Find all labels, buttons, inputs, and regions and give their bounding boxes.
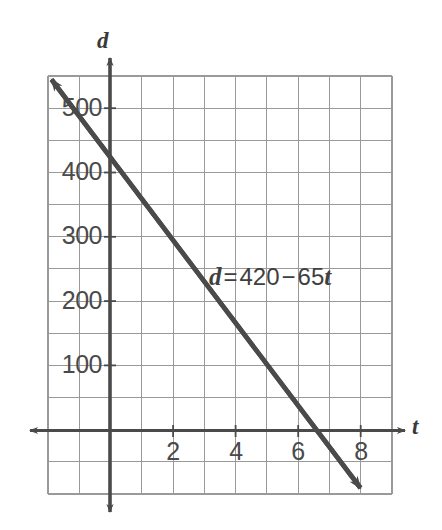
equation-variable: t bbox=[324, 263, 331, 290]
x-tick-label-2: 2 bbox=[153, 437, 193, 466]
x-tick-label-8: 8 bbox=[341, 437, 381, 466]
x-axis-label: t bbox=[412, 414, 418, 440]
equation-equals: = bbox=[222, 263, 240, 290]
x-tick-label-4: 4 bbox=[216, 437, 256, 466]
y-tick-label-200: 200 bbox=[36, 286, 102, 315]
y-tick-label-500: 500 bbox=[36, 93, 102, 122]
equation-lhs: d bbox=[209, 263, 222, 290]
equation-annotation: d=420−65t bbox=[209, 263, 331, 291]
equation-minus: − bbox=[280, 263, 298, 290]
graph-figure: d t 500 400 300 200 100 2 4 6 8 d=420−65… bbox=[0, 0, 442, 530]
equation-constant: 420 bbox=[240, 263, 280, 290]
equation-coefficient: 65 bbox=[298, 263, 325, 290]
y-tick-label-400: 400 bbox=[36, 157, 102, 186]
y-axis-label: d bbox=[97, 28, 109, 54]
x-tick-label-6: 6 bbox=[278, 437, 318, 466]
y-tick-label-100: 100 bbox=[36, 350, 102, 379]
y-tick-label-300: 300 bbox=[36, 221, 102, 250]
